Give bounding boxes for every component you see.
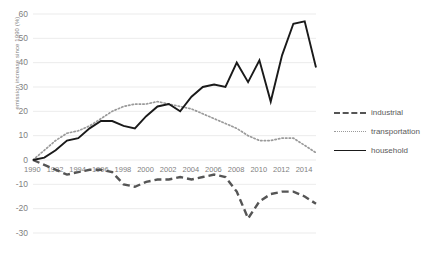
gridlines bbox=[33, 14, 316, 233]
chart-container: emission increase since 1990 (%) 6050403… bbox=[0, 0, 436, 256]
legend-item-industrial[interactable]: industrial bbox=[334, 108, 403, 117]
legend-label-household: household bbox=[371, 146, 408, 155]
legend-label-transportation: transportation bbox=[371, 127, 420, 136]
legend-label-industrial: industrial bbox=[371, 108, 403, 117]
series-line-transportation bbox=[33, 102, 316, 160]
legend-marker-household bbox=[334, 150, 366, 151]
legend-item-household[interactable]: household bbox=[334, 146, 408, 155]
legend-item-transportation[interactable]: transportation bbox=[334, 127, 420, 136]
legend-marker-transportation bbox=[334, 131, 366, 132]
series-line-industrial bbox=[33, 160, 316, 218]
legend-marker-industrial bbox=[334, 112, 366, 114]
series-line-household bbox=[33, 21, 316, 160]
